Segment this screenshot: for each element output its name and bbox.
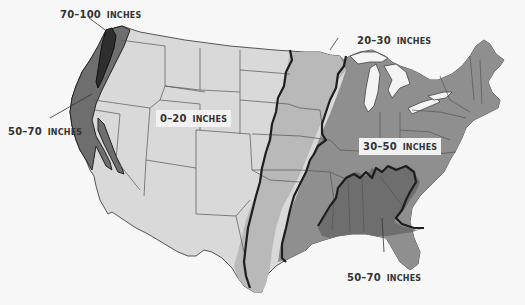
leader-lines — [0, 0, 525, 305]
label-unit: INCHES — [403, 143, 438, 152]
label-range: 0–20 — [160, 113, 187, 124]
label-range: 30–50 — [363, 141, 397, 152]
label-20-30-inches: 20–30 INCHES — [357, 29, 431, 48]
label-unit: INCHES — [48, 128, 83, 137]
precipitation-map: 70–100 INCHES 50–70 INCHES 0–20 INCHES 2… — [0, 0, 525, 305]
label-30-50-inches: 30–50 INCHES — [359, 138, 441, 155]
label-unit: INCHES — [387, 274, 422, 283]
label-unit: INCHES — [397, 37, 432, 46]
label-range: 50–70 — [347, 272, 381, 283]
label-unit: INCHES — [192, 115, 227, 124]
label-50-70-inches-south: 50–70 INCHES — [347, 266, 421, 285]
label-0-20-inches: 0–20 INCHES — [156, 110, 231, 127]
label-50-70-inches-west: 50–70 INCHES — [8, 120, 82, 139]
label-range: 20–30 — [357, 35, 391, 46]
label-range: 50–70 — [8, 126, 42, 137]
